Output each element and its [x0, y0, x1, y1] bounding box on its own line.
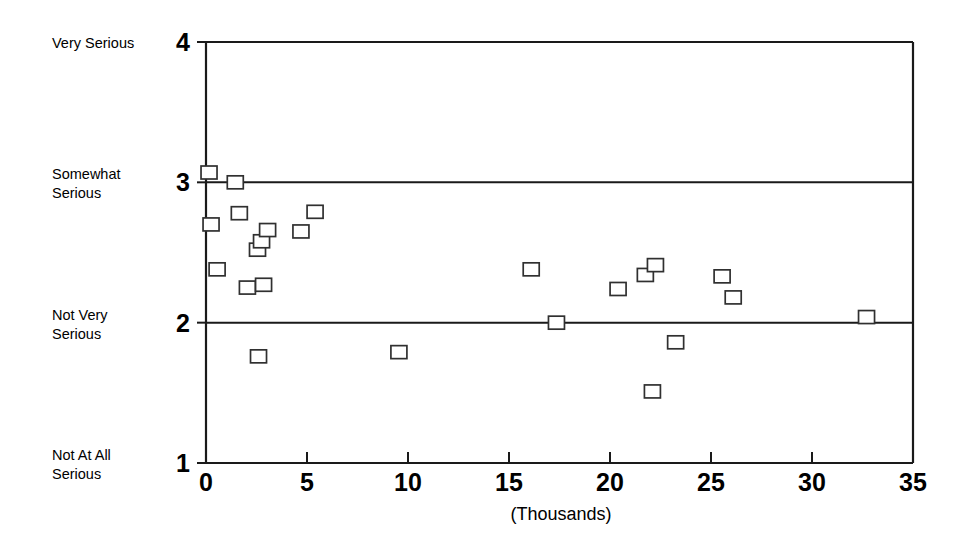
y-category-label-2: Not Very: [52, 307, 108, 323]
y-tick-label-group: 1234: [176, 28, 190, 477]
data-point: [548, 316, 564, 329]
data-point: [523, 263, 539, 276]
data-point: [391, 346, 407, 359]
data-point: [251, 350, 267, 363]
y-tick-label-4: 4: [176, 28, 190, 56]
x-tick-label-group: 05101520253035: [199, 468, 927, 496]
scatter-chart: Very SeriousSomewhatSeriousNot VerySerio…: [0, 0, 972, 558]
data-point: [260, 224, 276, 237]
x-tick-label-25: 25: [697, 468, 725, 496]
x-tick-label-10: 10: [394, 468, 422, 496]
data-point: [714, 270, 730, 283]
x-tick-label-35: 35: [899, 468, 927, 496]
data-point-group: [201, 166, 875, 398]
y-tick-label-3: 3: [176, 168, 190, 196]
grid-line-group: [206, 182, 913, 322]
y-category-label-1: Not At All: [52, 447, 111, 463]
data-point: [201, 166, 217, 179]
y-tick-label-1: 1: [176, 449, 190, 477]
x-tick-label-15: 15: [495, 468, 523, 496]
axis-line-group: [206, 42, 913, 463]
data-point: [610, 282, 626, 295]
data-point: [307, 205, 323, 218]
plot-canvas: Very SeriousSomewhatSeriousNot VerySerio…: [0, 0, 972, 558]
x-tick-label-0: 0: [199, 468, 213, 496]
y-category-label-3: Somewhat: [52, 166, 121, 182]
tick-mark-group: [197, 42, 913, 463]
y-tick-label-2: 2: [176, 309, 190, 337]
x-tick-label-5: 5: [300, 468, 314, 496]
data-point: [239, 281, 255, 294]
data-point: [256, 278, 272, 291]
y-category-label-2-line2: Serious: [52, 326, 101, 342]
data-point: [203, 218, 219, 231]
data-point: [293, 225, 309, 238]
data-point: [644, 385, 660, 398]
x-tick-label-30: 30: [798, 468, 826, 496]
x-tick-label-20: 20: [596, 468, 624, 496]
data-point: [647, 259, 663, 272]
data-point: [668, 336, 684, 349]
data-point: [725, 291, 741, 304]
data-point: [227, 176, 243, 189]
x-axis-title: (Thousands): [510, 504, 611, 524]
y-category-label-group: Very SeriousSomewhatSeriousNot VerySerio…: [52, 35, 134, 482]
data-point: [859, 311, 875, 324]
y-category-label-1-line2: Serious: [52, 466, 101, 482]
data-point: [231, 207, 247, 220]
y-category-label-3-line2: Serious: [52, 185, 101, 201]
y-category-label-4: Very Serious: [52, 35, 134, 51]
data-point: [209, 263, 225, 276]
